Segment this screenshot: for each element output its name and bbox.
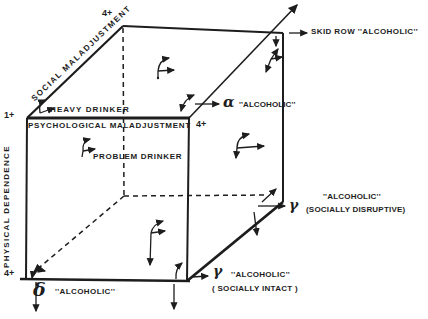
symbol-gamma-intact: γ bbox=[213, 263, 222, 279]
axis-physical-dependence: PHYSICAL DEPENDENCE bbox=[2, 145, 11, 268]
tick-psychological-max: 4+ bbox=[196, 119, 206, 129]
alcoholism-typology-cube-figure: 4+ 1+ 4+ 4+ SOCIAL MALADJUSTMENT PSYCHOL… bbox=[0, 0, 428, 319]
label-delta-alcoholic: ''ALCOHOLIC'' bbox=[55, 287, 115, 296]
trajectory-glyph-upper-right bbox=[266, 49, 282, 72]
trajectory-glyph-mid-right bbox=[236, 134, 264, 158]
trajectory-glyph-top-face bbox=[157, 58, 174, 79]
axis-psychological-maladjustment: PSYCHOLOGICAL MALADJUSTMENT bbox=[28, 121, 191, 130]
label-heavy-drinker: HEAVY DRINKER bbox=[50, 105, 130, 114]
trajectory-glyph-mid-front bbox=[150, 221, 165, 265]
label-gamma-disruptive-line2: (SOCIALLY DISRUPTIVE) bbox=[306, 205, 405, 214]
symbol-gamma-disruptive: γ bbox=[289, 197, 298, 213]
label-gamma-intact-line2: ( SOCIALLY INTACT ) bbox=[212, 284, 298, 293]
trajectory-glyph-gamma-intact-corner bbox=[174, 263, 182, 309]
label-skid-row-alcoholic: SKID ROW ''ALCOHOLIC'' bbox=[311, 27, 418, 36]
label-problem-drinker: PROBLEM DRINKER bbox=[93, 152, 182, 161]
tick-social-max: 4+ bbox=[102, 8, 112, 18]
label-alpha-alcoholic: ''ALCOHOLIC'' bbox=[239, 100, 295, 109]
trajectory-glyph-alpha-corner bbox=[181, 95, 194, 111]
label-pointer-arrows bbox=[192, 33, 307, 277]
symbol-delta: δ bbox=[33, 278, 46, 300]
label-gamma-intact-line1: ''ALCOHOLIC'' bbox=[231, 270, 290, 279]
label-gamma-disruptive-line1: ''ALCOHOLIC'' bbox=[323, 192, 381, 201]
symbol-alpha: α bbox=[223, 93, 235, 111]
tick-origin: 1+ bbox=[4, 110, 14, 120]
tick-physical-max: 4+ bbox=[4, 268, 14, 278]
